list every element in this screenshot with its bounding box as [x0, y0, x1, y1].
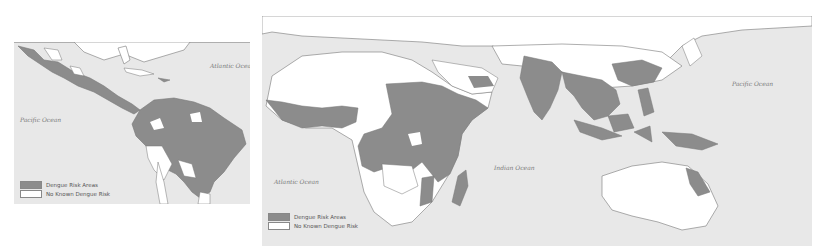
risk-swatch: [20, 181, 42, 189]
world-dengue-map: Atlantic Ocean Indian Ocean Pacific Ocea…: [262, 16, 812, 246]
no-risk-swatch: [268, 222, 290, 230]
indian-ocean-label: Indian Ocean: [494, 164, 535, 171]
pacific-ocean-label: Pacific Ocean: [20, 116, 61, 123]
legend-no-risk-label: No Known Dengue Risk: [46, 191, 110, 197]
legend-item-risk: Dengue Risk Areas: [20, 180, 110, 189]
legend-risk-label: Dengue Risk Areas: [46, 182, 98, 188]
legend-item-no-risk: No Known Dengue Risk: [268, 221, 358, 230]
world-legend: Dengue Risk Areas No Known Dengue Risk: [268, 212, 358, 230]
risk-swatch: [268, 213, 290, 221]
no-risk-swatch: [20, 190, 42, 198]
legend-item-risk: Dengue Risk Areas: [268, 212, 358, 221]
americas-legend: Dengue Risk Areas No Known Dengue Risk: [20, 180, 110, 198]
americas-dengue-map: Atlantic Ocean Pacific Ocean Dengue Risk…: [14, 42, 250, 204]
atlantic-ocean-label: Atlantic Ocean: [274, 178, 319, 185]
pacific-ocean-label: Pacific Ocean: [732, 80, 773, 87]
legend-risk-label: Dengue Risk Areas: [294, 214, 346, 220]
legend-item-no-risk: No Known Dengue Risk: [20, 189, 110, 198]
legend-no-risk-label: No Known Dengue Risk: [294, 223, 358, 229]
atlantic-ocean-label: Atlantic Ocean: [210, 62, 250, 69]
